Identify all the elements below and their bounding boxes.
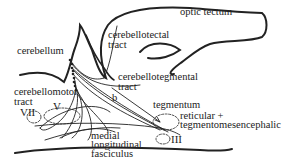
- label-cerebellotegmental-tract: tract: [118, 82, 137, 92]
- label-branch-b: b: [112, 93, 117, 103]
- label-optic-tectum: optic tectum: [180, 7, 232, 17]
- label-nucleus-iii: III: [171, 134, 182, 144]
- label-cerebellum: cerebellum: [17, 46, 64, 56]
- label-nucleus-v: V: [53, 101, 61, 111]
- diagram-canvas: optic tectum cerebellum cerebellotectal …: [0, 0, 295, 167]
- pathway-drawing: [0, 0, 295, 167]
- label-tegmentum: tegmentum: [153, 100, 200, 110]
- label-mlf-fasciculus: fasciculus: [91, 149, 133, 159]
- label-cerebellotectal-tract: tract: [108, 40, 127, 50]
- nucleus-iii-outline: [156, 134, 170, 144]
- label-nucleus-vii: VII: [20, 107, 35, 117]
- label-tegmentomesencephalic: tegmentomesencephalic: [180, 120, 281, 130]
